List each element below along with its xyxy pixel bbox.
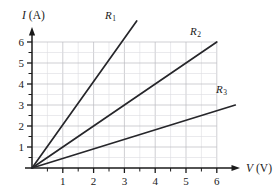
y-axis-title: I(A): [21, 9, 45, 22]
series-label-R2-text: R: [189, 25, 197, 37]
y-tick-label: 3: [19, 99, 25, 111]
y-tick-label: 1: [19, 141, 25, 153]
y-tick-label: 4: [19, 78, 25, 90]
x-tick-label: 4: [152, 175, 158, 187]
y-tick-label: 2: [19, 120, 25, 132]
series-label-R2-sub: 2: [197, 30, 201, 39]
series-label-R1-sub: 1: [112, 14, 116, 23]
x-axis-unit: (V): [256, 162, 272, 175]
y-tick-label: 6: [19, 36, 25, 48]
x-tick-label: 6: [214, 175, 220, 187]
x-tick-label: 1: [60, 175, 66, 187]
x-axis-title: V(V): [246, 162, 272, 175]
y-tick-label: 5: [19, 57, 25, 69]
x-tick-label: 5: [183, 175, 189, 187]
x-tick-label: 3: [122, 175, 128, 187]
series-label-R1-text: R: [104, 9, 112, 21]
series-label-R3-text: R: [215, 83, 223, 95]
x-tick-label: 2: [91, 175, 97, 187]
series-label-R3-sub: 3: [223, 88, 227, 97]
y-axis-unit: (A): [29, 9, 45, 22]
iv-characteristic-chart: 1 2 3 4 5 6 1 2 3 4 5 6 I(A) V(V) R1 R2 …: [0, 0, 275, 190]
